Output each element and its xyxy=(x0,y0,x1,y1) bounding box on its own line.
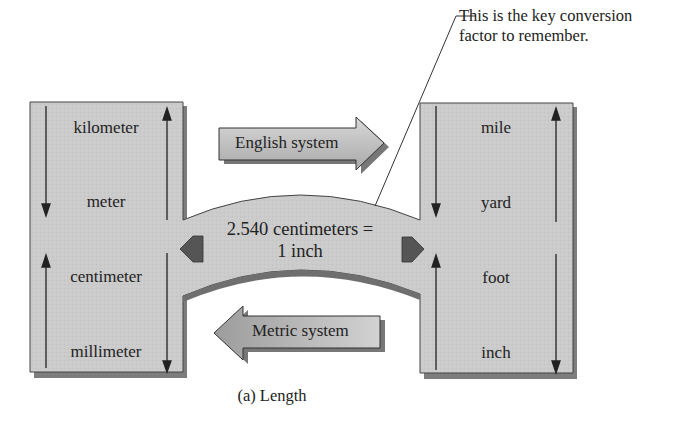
metric-unit-centimeter: centimeter xyxy=(70,267,142,287)
length-conversion-diagram: This is the key conversion factor to rem… xyxy=(0,0,696,431)
callout-line-2: factor to remember. xyxy=(459,26,632,46)
metric-system-label: Metric system xyxy=(252,321,349,341)
conversion-line-2: 1 inch xyxy=(227,240,374,262)
conversion-line-1: 2.540 centimeters = xyxy=(227,218,374,240)
conversion-factor: 2.540 centimeters = 1 inch xyxy=(227,218,374,262)
english-unit-mile: mile xyxy=(481,118,511,138)
callout-line-1: This is the key conversion xyxy=(459,6,632,26)
metric-unit-kilometer: kilometer xyxy=(73,118,138,138)
english-system-label: English system xyxy=(235,133,338,153)
english-unit-foot: foot xyxy=(482,268,509,288)
callout-note: This is the key conversion factor to rem… xyxy=(459,6,632,46)
english-unit-yard: yard xyxy=(481,193,511,213)
figure-caption: (a) Length xyxy=(237,386,306,406)
diagram-graphics xyxy=(0,0,696,431)
metric-unit-meter: meter xyxy=(87,192,126,212)
english-unit-inch: inch xyxy=(481,343,510,363)
metric-unit-millimeter: millimeter xyxy=(71,342,142,362)
